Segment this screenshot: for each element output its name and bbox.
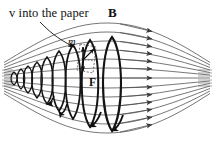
field-line-up-1 [4, 68, 210, 75]
field-line-dn-4-arrow [120, 109, 152, 114]
field-line-up-3-arrow [120, 50, 152, 54]
force-label: F [89, 77, 96, 89]
field-line-dn-4 [4, 89, 210, 116]
orbit-loop-7 [66, 45, 81, 119]
field-line-up-6-arrow [120, 24, 152, 32]
figure-canvas [0, 0, 214, 157]
magnetic-mirror-figure: v into the paper B m F [0, 0, 214, 157]
field-line-up-1-arrow [120, 68, 152, 69]
orbit-loop-6 [52, 51, 66, 111]
orbit-loop-9 [103, 37, 121, 131]
field-line-up-6 [4, 23, 210, 63]
field-line-up-4-arrow [120, 42, 152, 47]
particle-mass-label: m [68, 37, 76, 48]
field-line-dn-1 [4, 81, 210, 88]
field-line-dn-1-arrow [120, 87, 152, 88]
field-line-dn-3-arrow [120, 102, 152, 106]
field-line-dn-2-arrow [120, 95, 152, 97]
field-line-dn-5-arrow [120, 117, 152, 123]
velocity-into-paper-label: v into the paper [9, 7, 89, 20]
field-line-dn-6 [4, 94, 210, 134]
field-line-dn-6-arrow [120, 125, 152, 133]
field-line-up-5-arrow [120, 33, 152, 39]
particle-orbit-loops [11, 37, 121, 131]
magnetic-field-label: B [108, 6, 117, 19]
field-line-up-2-arrow [120, 59, 152, 61]
